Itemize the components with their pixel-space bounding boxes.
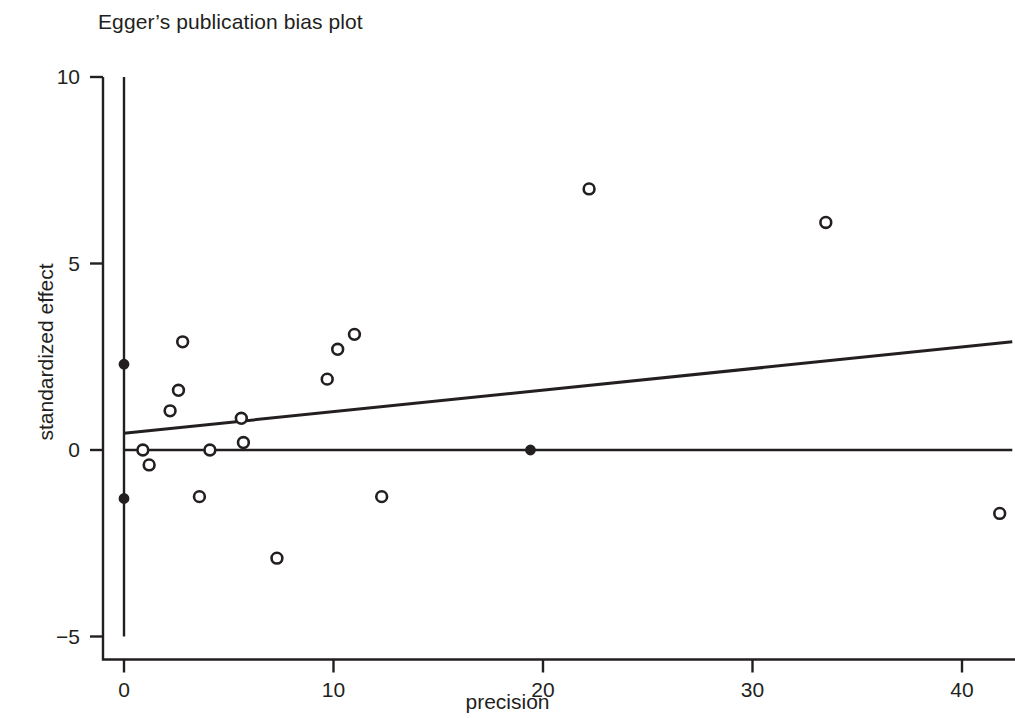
data-points-group [119,184,1005,564]
x-tick-label: 40 [950,678,973,702]
x-tick-label: 0 [118,678,130,702]
data-point-open [144,460,155,471]
y-tick-label: 10 [20,65,80,89]
data-point-open [137,445,148,456]
regression-line [124,342,1012,433]
data-point-filled [119,494,128,503]
x-tick-label: 20 [531,678,554,702]
data-point-open [994,508,1005,519]
data-point-open [204,445,215,456]
y-tick-label: 0 [20,438,80,462]
axes-group [103,77,1015,660]
data-point-open [272,553,283,564]
data-point-open [332,344,343,355]
data-point-open [173,385,184,396]
data-point-open [820,217,831,228]
data-point-open [349,329,360,340]
axis-frame [103,77,1015,660]
trend-lines-group [124,77,1012,637]
x-tick-label: 30 [741,678,764,702]
data-point-filled [526,445,535,454]
egger-publication-bias-plot: Egger’s publication bias plot standardiz… [0,0,1015,718]
data-point-open [376,491,387,502]
tick-marks-group [90,77,962,673]
data-point-open [165,405,176,416]
plot-canvas [0,0,1015,718]
data-point-open [194,491,205,502]
data-point-open [236,413,247,424]
data-point-open [238,437,249,448]
data-point-open [177,336,188,347]
x-tick-label: 10 [322,678,345,702]
y-tick-label: −5 [20,625,80,649]
data-point-open [584,184,595,195]
data-point-filled [119,360,128,369]
y-tick-label: 5 [20,252,80,276]
data-point-open [322,374,333,385]
